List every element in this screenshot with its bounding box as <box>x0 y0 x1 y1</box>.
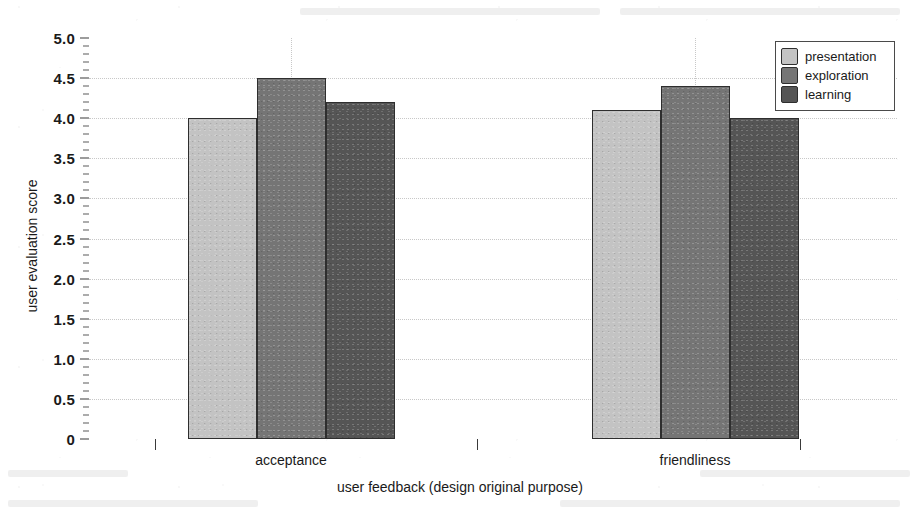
bar-learning-acceptance <box>326 102 395 439</box>
y-tick-label: 1.5 <box>54 310 75 327</box>
bar-presentation-friendliness <box>592 110 661 439</box>
bar-exploration-friendliness <box>661 86 730 439</box>
y-tick-label: 4.0 <box>54 110 75 127</box>
bar-presentation-acceptance <box>188 118 257 439</box>
x-category-label: friendliness <box>660 452 731 468</box>
y-tick-label: 5.0 <box>54 30 75 47</box>
bar-exploration-acceptance <box>257 78 326 439</box>
legend-swatch-icon <box>781 67 798 84</box>
x-category-label: acceptance <box>255 452 327 468</box>
legend-label: exploration <box>805 69 869 82</box>
y-tick-label: 2.0 <box>54 270 75 287</box>
y-tick-major <box>80 38 89 39</box>
legend-item-presentation: presentation <box>781 47 890 66</box>
legend-swatch-icon <box>781 48 798 65</box>
legend: presentationexplorationlearning <box>775 41 895 111</box>
bar-chart-figure: user evaluation score 00.51.01.52.02.53.… <box>0 0 920 514</box>
y-tick-major <box>80 278 89 279</box>
legend-swatch-icon <box>781 86 798 103</box>
plot-area: presentationexplorationlearning <box>89 38 897 439</box>
y-tick-major <box>80 198 89 199</box>
y-tick-major <box>80 238 89 239</box>
x-tick-major <box>477 439 478 450</box>
legend-item-learning: learning <box>781 85 890 104</box>
y-tick-label: 3.0 <box>54 190 75 207</box>
y-tick-major <box>80 78 89 79</box>
y-tick-label: 2.5 <box>54 230 75 247</box>
y-axis: 00.51.01.52.02.53.03.54.04.55.0 <box>0 0 89 514</box>
y-tick-label: 1.0 <box>54 350 75 367</box>
x-tick-major <box>155 439 156 450</box>
y-tick-major <box>80 439 89 440</box>
x-tick-major <box>800 439 801 450</box>
legend-label: learning <box>805 88 851 101</box>
x-axis-title: user feedback (design original purpose) <box>0 479 920 495</box>
y-tick-major <box>80 318 89 319</box>
y-tick-major <box>80 398 89 399</box>
y-tick-major <box>80 358 89 359</box>
y-tick-major <box>80 118 89 119</box>
legend-item-exploration: exploration <box>781 66 890 85</box>
bar-learning-friendliness <box>730 118 799 439</box>
y-tick-label: 4.5 <box>54 70 75 87</box>
legend-label: presentation <box>805 50 877 63</box>
y-tick-label: 0 <box>66 431 75 448</box>
y-tick-major <box>80 158 89 159</box>
y-tick-label: 0.5 <box>54 390 75 407</box>
y-tick-label: 3.5 <box>54 150 75 167</box>
